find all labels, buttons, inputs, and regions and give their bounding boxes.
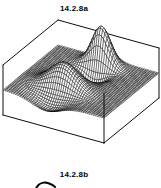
surface-mesh — [3, 26, 159, 118]
page: 14.2.8a 14.2.8b — [0, 0, 161, 188]
surface-plot-a — [0, 0, 161, 188]
figure-b-fragment — [37, 183, 56, 188]
figure-b-label: 14.2.8b — [0, 170, 148, 179]
box-edge — [3, 115, 104, 143]
figure-b-fragment-arc — [37, 183, 56, 188]
